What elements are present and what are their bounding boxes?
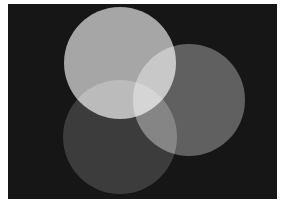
venn-svg bbox=[0, 0, 282, 206]
circle-bottom-left bbox=[63, 80, 177, 194]
venn-diagram bbox=[0, 0, 282, 206]
